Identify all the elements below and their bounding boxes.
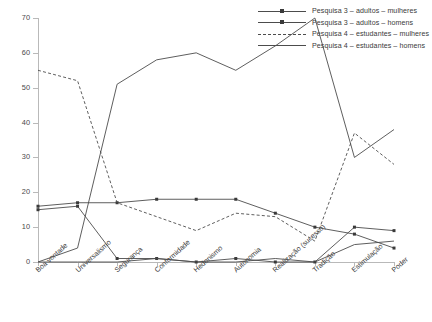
data-point-marker [37, 205, 40, 208]
series-line-extra0 [38, 18, 394, 262]
data-point-marker [195, 198, 198, 201]
data-point-marker [274, 212, 277, 215]
series-line-s3 [38, 241, 394, 262]
series-line-s1 [38, 206, 394, 262]
series-line-s2 [38, 70, 394, 241]
data-point-marker [37, 208, 40, 211]
series-line-s0 [38, 199, 394, 248]
data-point-marker [393, 247, 396, 250]
data-point-marker [116, 257, 119, 260]
data-point-marker [353, 226, 356, 229]
data-point-marker [76, 201, 79, 204]
data-point-marker [353, 233, 356, 236]
data-point-marker [274, 261, 277, 264]
data-point-marker [313, 226, 316, 229]
series-layer [0, 0, 432, 322]
data-point-marker [234, 257, 237, 260]
chart-container: Pesquisa 3 – adultos – mulheres Pesquisa… [0, 0, 432, 322]
data-point-marker [155, 198, 158, 201]
data-point-marker [76, 205, 79, 208]
data-point-marker [234, 198, 237, 201]
data-point-marker [393, 229, 396, 232]
